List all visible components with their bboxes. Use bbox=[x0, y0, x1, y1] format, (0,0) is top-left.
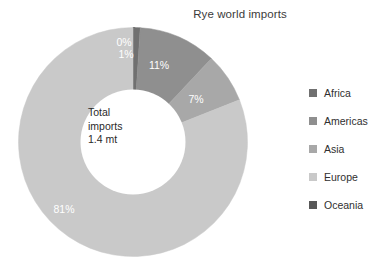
legend-swatch-oceania-icon bbox=[309, 201, 317, 209]
legend-swatch-africa-icon bbox=[309, 89, 317, 97]
chart-title: Rye world imports bbox=[150, 8, 330, 20]
legend-item-europe[interactable]: Europe bbox=[309, 170, 387, 183]
legend-label: Oceania bbox=[324, 199, 363, 211]
donut-center-hole bbox=[81, 90, 186, 195]
legend-label: Asia bbox=[324, 143, 344, 155]
donut-svg bbox=[18, 27, 248, 257]
legend-swatch-europe-icon bbox=[309, 173, 317, 181]
legend-label: Europe bbox=[324, 171, 358, 183]
legend-label: Americas bbox=[324, 115, 368, 127]
legend-item-oceania[interactable]: Oceania bbox=[309, 198, 387, 211]
legend-item-africa[interactable]: Africa bbox=[309, 86, 387, 99]
legend-item-americas[interactable]: Americas bbox=[309, 114, 387, 127]
rye-world-imports-chart: Rye world imports Total imports 1.4 mt 0… bbox=[0, 0, 388, 275]
legend-label: Africa bbox=[324, 87, 351, 99]
legend-swatch-asia-icon bbox=[309, 145, 317, 153]
legend-item-asia[interactable]: Asia bbox=[309, 142, 387, 155]
donut-plot-area bbox=[18, 27, 248, 257]
chart-legend: AfricaAmericasAsiaEuropeOceania bbox=[309, 86, 387, 211]
legend-swatch-americas-icon bbox=[309, 117, 317, 125]
